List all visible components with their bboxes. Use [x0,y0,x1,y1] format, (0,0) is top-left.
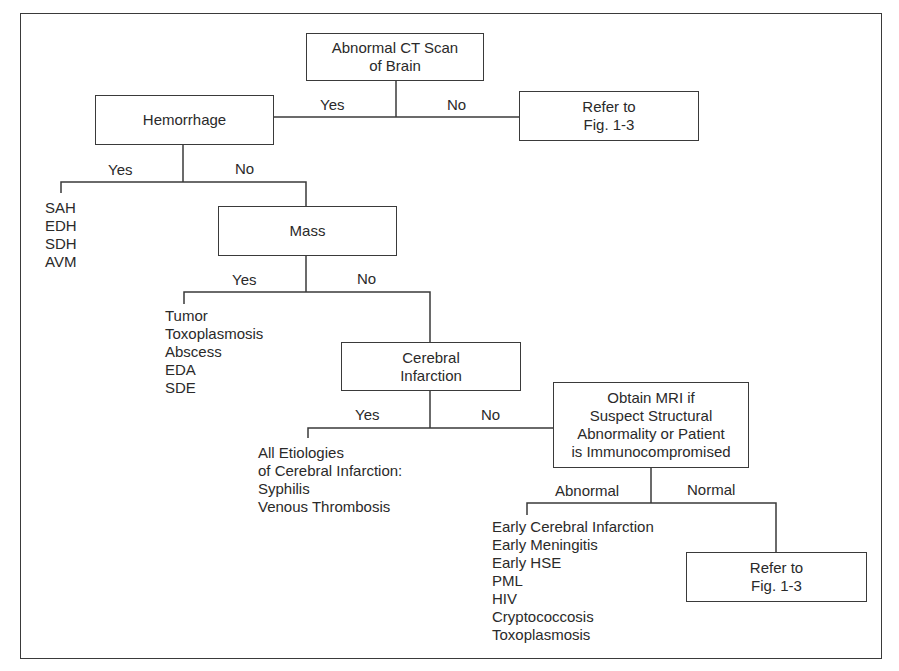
edge-label-mass-yes: Yes [232,271,256,289]
edge-label-mri-abnormal: Abnormal [555,482,619,500]
edge-label-root-yes: Yes [320,96,344,114]
edge-label-mass-no: No [357,270,376,288]
list-mass-causes: Tumor Toxoplasmosis Abscess EDA SDE [165,307,263,397]
node-refer-fig-1-3-bottom: Refer to Fig. 1-3 [686,552,867,602]
node-obtain-mri: Obtain MRI if Suspect Structural Abnorma… [553,382,749,468]
node-mass: Mass [218,206,397,256]
edge-label-inf-no: No [481,406,500,424]
node-abnormal-ct-scan: Abnormal CT Scan of Brain [306,33,484,81]
edge-label-mri-normal: Normal [687,481,735,499]
edge-label-inf-yes: Yes [355,406,379,424]
node-refer-fig-1-3-top: Refer to Fig. 1-3 [519,91,699,141]
node-cerebral-infarction: Cerebral Infarction [341,342,521,391]
list-hemorrhage-types: SAH EDH SDH AVM [45,199,77,271]
edge-label-hem-no: No [235,160,254,178]
edge-label-root-no: No [447,96,466,114]
list-infarction-etiologies: All Etiologies of Cerebral Infarction: S… [258,444,402,516]
list-mri-abnormal-findings: Early Cerebral Infarction Early Meningit… [492,518,654,644]
node-hemorrhage: Hemorrhage [95,95,274,145]
edge-label-hem-yes: Yes [108,161,132,179]
